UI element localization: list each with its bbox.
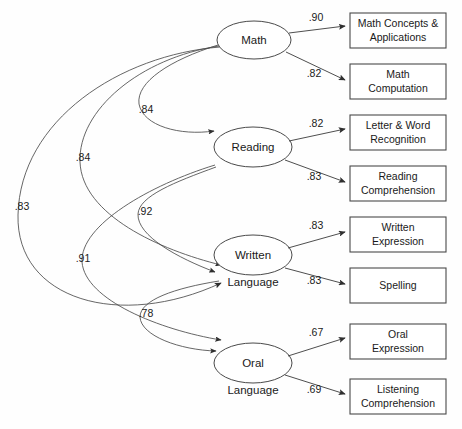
factor-label-reading: Reading bbox=[232, 141, 275, 153]
factor-label-written: Written bbox=[235, 249, 271, 261]
coefficient-math-reading: .84 bbox=[139, 103, 154, 115]
indicator-label-listening-comprehension-line2: Comprehension bbox=[361, 397, 435, 409]
indicator-label-reading-comprehension-line2: Comprehension bbox=[361, 184, 435, 196]
coefficient-listening-comprehension: .69 bbox=[307, 383, 322, 395]
indicator-label-written-expression-line2: Expression bbox=[372, 235, 424, 247]
loading-coefficients: .90 .82 .82 .83 .83 .83 .67 .69 bbox=[307, 11, 324, 395]
coefficient-math-written: .84 bbox=[76, 151, 91, 163]
indicator-label-letter-word-line2: Recognition bbox=[370, 133, 426, 145]
factor-sublabel-oral-language: Language bbox=[227, 384, 278, 396]
coefficient-written-oral: .78 bbox=[139, 307, 154, 319]
coefficient-letter-word: .82 bbox=[309, 117, 324, 129]
coefficient-oral-expression: .67 bbox=[309, 326, 324, 338]
coefficient-written-expression: .83 bbox=[309, 219, 324, 231]
coefficient-math-oral: .83 bbox=[15, 200, 30, 212]
factor-label-oral: Oral bbox=[242, 357, 264, 369]
sem-path-diagram: Math Reading Written Language Oral Langu… bbox=[0, 0, 462, 429]
loading-paths bbox=[285, 26, 345, 394]
loading-path-written-expression bbox=[288, 232, 345, 248]
indicator-label-spelling-line1: Spelling bbox=[379, 279, 417, 291]
indicator-label-oral-expression-line1: Oral bbox=[388, 328, 408, 340]
indicator-label-math-computation-line2: Computation bbox=[368, 82, 428, 94]
coefficient-reading-comprehension: .83 bbox=[307, 170, 322, 182]
coefficient-math-computation: .82 bbox=[307, 67, 322, 79]
indicator-label-written-expression-line1: Written bbox=[381, 221, 414, 233]
indicator-nodes: Math Concepts & Applications Math Comput… bbox=[350, 13, 446, 414]
coefficient-math-concepts: .90 bbox=[309, 11, 324, 23]
factor-sublabel-written-language: Language bbox=[227, 276, 278, 288]
indicator-label-math-concepts-line2: Applications bbox=[370, 31, 427, 43]
loading-path-oral-expression bbox=[288, 338, 345, 356]
indicator-label-reading-comprehension-line1: Reading bbox=[378, 170, 417, 182]
factor-label-math: Math bbox=[241, 34, 267, 46]
arc-math-reading bbox=[139, 45, 218, 132]
indicator-label-math-concepts-line1: Math Concepts & bbox=[358, 17, 439, 29]
indicator-label-math-computation-line1: Math bbox=[386, 68, 410, 80]
arc-reading-written bbox=[138, 167, 216, 272]
covariance-arcs bbox=[18, 45, 221, 351]
loading-path-letter-word bbox=[289, 129, 345, 141]
loading-path-math-concepts bbox=[289, 26, 345, 33]
indicator-label-letter-word-line1: Letter & Word bbox=[366, 119, 431, 131]
coefficient-spelling: .83 bbox=[307, 274, 322, 286]
coefficient-reading-written: .92 bbox=[138, 205, 153, 217]
arc-math-oral bbox=[18, 47, 221, 305]
coefficient-reading-oral: .91 bbox=[76, 252, 91, 264]
path-diagram-canvas: Math Reading Written Language Oral Langu… bbox=[0, 0, 462, 429]
factor-nodes: Math Reading Written Language Oral Langu… bbox=[214, 21, 292, 396]
indicator-label-listening-comprehension-line1: Listening bbox=[377, 383, 419, 395]
indicator-label-oral-expression-line2: Expression bbox=[372, 342, 424, 354]
